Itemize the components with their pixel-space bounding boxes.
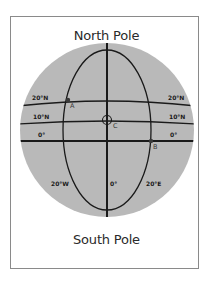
label-equator-right: 0° xyxy=(170,131,177,138)
label-20w: 20°W xyxy=(51,180,69,187)
label-equator-left: 0° xyxy=(38,131,45,138)
label-20n-right: 20°N xyxy=(168,94,184,101)
label-10n-right: 10°N xyxy=(169,113,185,120)
label-20e: 20°E xyxy=(146,180,161,187)
point-a-label: A xyxy=(70,102,75,110)
point-b-label: B xyxy=(153,143,157,151)
south-pole-title: South Pole xyxy=(0,232,213,247)
label-0-meridian: 0° xyxy=(110,180,117,187)
point-c-label: C xyxy=(113,122,118,130)
label-10n-left: 10°N xyxy=(33,113,49,120)
label-20n-left: 20°N xyxy=(32,94,48,101)
